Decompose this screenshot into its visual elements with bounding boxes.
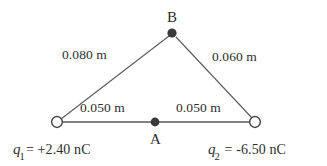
charge-label-q2: q2 = -6.50 nC [208, 142, 286, 160]
point-label-a: A [150, 132, 161, 147]
point-label-b: B [167, 10, 177, 25]
charge-q1-subscript: 1 [20, 151, 25, 162]
charge-q2-subscript: 2 [215, 151, 220, 162]
distance-label-bottom-left: 0.050 m [80, 101, 125, 115]
charge-q2-value: = -6.50 nC [225, 142, 286, 157]
distance-label-right-side: 0.060 m [212, 50, 257, 64]
charge-q1-value: = +2.40 nC [26, 142, 91, 157]
charge-label-q1: q1= +2.40 nC [13, 142, 91, 160]
charge-q2-marker [250, 117, 261, 128]
point-a-marker [151, 118, 160, 127]
distance-label-bottom-right: 0.050 m [176, 101, 221, 115]
physics-diagram-figure: B A 0.080 m 0.060 m 0.050 m 0.050 m q1= … [0, 0, 327, 166]
point-b-marker [167, 28, 176, 37]
charge-q1-marker [52, 117, 63, 128]
distance-label-left-side: 0.080 m [62, 48, 107, 62]
